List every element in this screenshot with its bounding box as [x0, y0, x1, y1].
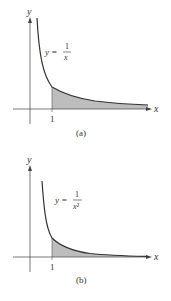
- x-axis-label-a: x: [153, 103, 159, 114]
- y-axis-label-b: y: [26, 154, 32, 165]
- chart-panel-b: y x 1 y = 1 x² (b): [0, 150, 171, 301]
- x-axis-label-b: x: [153, 251, 159, 262]
- shaded-area-a: [52, 87, 148, 109]
- y-axis-arrow-icon: [28, 165, 32, 171]
- equation-denominator-b: x²: [72, 202, 80, 211]
- equation-lhs-b: y =: [54, 195, 67, 205]
- equation-denominator-a: x: [63, 53, 68, 62]
- tick-label-1-b: 1: [50, 262, 55, 272]
- chart-panel-a: y x 1 y = 1 x (a): [0, 0, 171, 150]
- panel-caption-b: (b): [76, 275, 87, 285]
- y-axis-arrow-icon: [28, 17, 32, 23]
- equation-lhs-a: y =: [44, 47, 57, 57]
- equation-numerator-a: 1: [65, 42, 69, 51]
- tick-label-1-a: 1: [50, 114, 55, 124]
- equation-numerator-b: 1: [75, 190, 79, 199]
- x-axis-arrow-icon: [146, 107, 152, 111]
- panel-caption-a: (a): [76, 128, 86, 138]
- y-axis-label-a: y: [26, 6, 32, 17]
